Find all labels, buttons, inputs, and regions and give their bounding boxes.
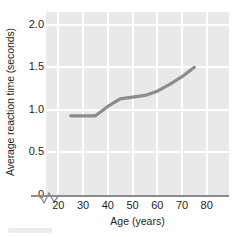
y-axis-title: Average reaction time (seconds) [2,4,18,200]
y-tick-label: 0.5 [4,146,44,157]
scan-artifact [8,228,52,233]
plot-area [46,12,229,195]
reaction-time-line-series [46,12,229,195]
y-tick-label: 1.0 [4,104,44,115]
x-tick-label: 80 [192,199,222,211]
y-tick-label: 2.0 [4,19,44,30]
x-axis-title: Age (years) [46,215,229,227]
y-tick-label: 1.5 [4,61,44,72]
chart-figure: Average reaction time (seconds) 2.0 1.5 … [0,0,245,237]
